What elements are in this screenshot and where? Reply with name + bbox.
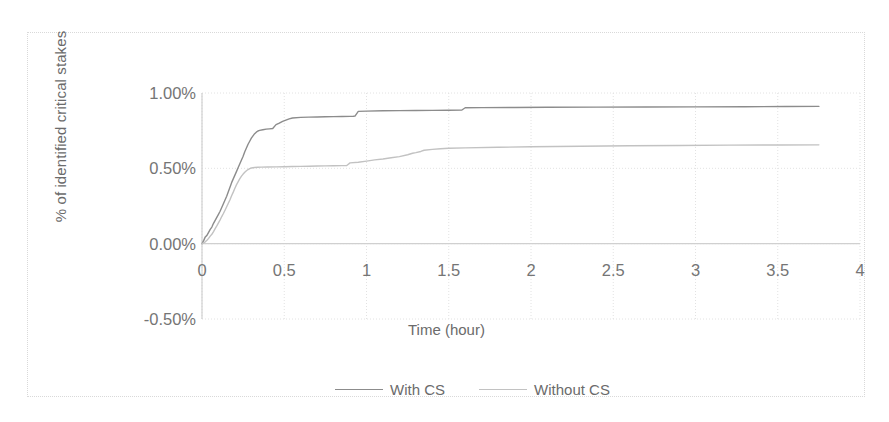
chart-frame: 1.00% 0.50% 0.00% -0.50% % of identified… <box>27 32 865 397</box>
x-tick-label-1: 0.5 <box>273 261 296 280</box>
y-axis-title: % of identified critical stakes <box>52 0 69 267</box>
legend-label-without-cs: Without CS <box>534 381 610 398</box>
y-tick-label-2: 0.00% <box>112 235 196 254</box>
series-line-without-cs <box>202 145 819 244</box>
x-tick-label-2: 1 <box>362 261 371 280</box>
legend-label-with-cs: With CS <box>390 381 445 398</box>
chart-figure: 1.00% 0.50% 0.00% -0.50% % of identified… <box>0 0 889 422</box>
x-tick-label-0: 0 <box>197 261 206 280</box>
y-tick-label-1: 0.50% <box>112 159 196 178</box>
legend-line-swatch-with-cs <box>335 389 383 390</box>
legend-item-with-cs: With CS <box>335 381 445 398</box>
y-axis-tick-labels: 1.00% 0.50% 0.00% -0.50% <box>104 93 196 319</box>
series-lines <box>202 106 819 243</box>
x-tick-label-7: 3.5 <box>766 261 789 280</box>
x-tick-label-6: 3 <box>691 261 700 280</box>
chart-legend: With CS Without CS <box>28 381 889 398</box>
series-line-with-cs <box>202 106 819 243</box>
x-axis-title: Time (hour) <box>408 321 485 338</box>
y-tick-label-0: 1.00% <box>112 84 196 103</box>
x-tick-label-3: 1.5 <box>437 261 460 280</box>
x-tick-label-4: 2 <box>526 261 535 280</box>
y-tick-label-3: -0.50% <box>112 310 196 329</box>
legend-item-without-cs: Without CS <box>479 381 610 398</box>
legend-line-swatch-without-cs <box>479 389 527 390</box>
x-tick-label-8: 4 <box>855 261 864 280</box>
x-axis-tick-labels: 00.511.522.533.54 <box>202 261 860 291</box>
x-tick-label-5: 2.5 <box>602 261 625 280</box>
